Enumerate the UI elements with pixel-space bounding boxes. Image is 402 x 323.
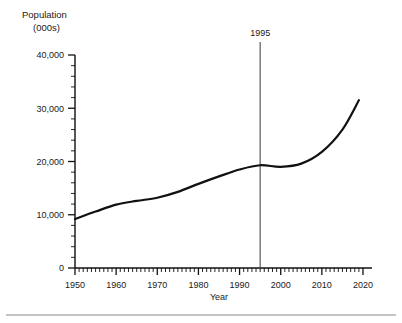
x-tick-label: 2020 <box>353 280 373 290</box>
x-tick-label: 1960 <box>106 280 126 290</box>
y-axis-ticks <box>68 55 75 268</box>
x-axis-title: Year <box>210 292 228 302</box>
y-axis-title-line2: (000s) <box>33 22 60 33</box>
chart-series <box>75 100 359 219</box>
x-tick-label: 1980 <box>188 280 208 290</box>
x-axis-ticks <box>75 268 363 275</box>
chart-annotations: 1995 <box>250 28 270 268</box>
x-axis-tick-labels: 19501960197019801990200020102020 <box>65 280 373 290</box>
y-tick-label: 30,000 <box>36 104 64 114</box>
x-tick-label: 1970 <box>147 280 167 290</box>
y-tick-label: 0 <box>59 263 64 273</box>
x-tick-label: 2000 <box>271 280 291 290</box>
chart-canvas: Population (000s) 010,00020,00030,00040,… <box>0 0 402 323</box>
y-tick-label: 20,000 <box>36 157 64 167</box>
y-axis-title-line1: Population <box>22 9 67 20</box>
x-tick-label: 2010 <box>312 280 332 290</box>
y-tick-label: 40,000 <box>36 50 64 60</box>
x-tick-label: 1990 <box>230 280 250 290</box>
annotation-label: 1995 <box>250 28 270 38</box>
series-line-population <box>75 100 359 219</box>
x-tick-label: 1950 <box>65 280 85 290</box>
y-axis-tick-labels: 010,00020,00030,00040,000 <box>36 50 64 273</box>
population-line-chart: Population (000s) 010,00020,00030,00040,… <box>0 0 402 323</box>
y-tick-label: 10,000 <box>36 210 64 220</box>
